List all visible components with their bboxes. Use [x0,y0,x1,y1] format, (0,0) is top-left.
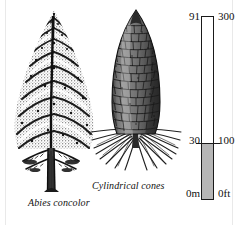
illustration-plate: Abies concolor Cylindrical cones 91 300 … [0,0,240,225]
scale-bar-track [201,16,214,200]
scale-label-metric-bottom: 0m [186,188,200,199]
plate-left-rule [5,0,6,225]
scale-label-imperial-mid: 100 [218,135,235,146]
tree-caption: Abies concolor [28,197,90,208]
scale-label-imperial-top: 300 [218,11,235,22]
cone-caption: Cylindrical cones [92,180,165,191]
scale-label-metric-top: 91 [189,11,200,22]
scale-bar-fill [202,143,213,199]
height-scale-bar: 91 300 30 100 0m 0ft [178,8,240,204]
cone-illustration [86,8,186,186]
scale-label-metric-mid: 30 [189,135,200,146]
scale-label-imperial-bottom: 0ft [218,188,230,199]
